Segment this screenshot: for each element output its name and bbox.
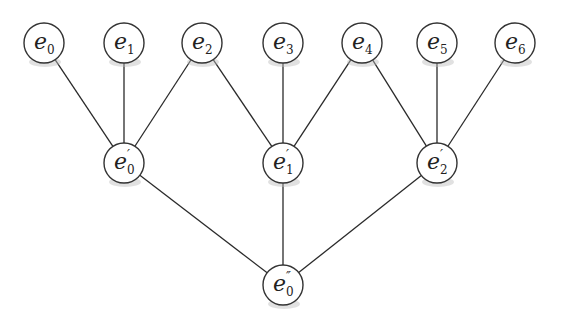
node-e0: e0 xyxy=(24,23,64,67)
edge-e0p-e0pp xyxy=(140,175,267,273)
edge-e2-e1p xyxy=(213,60,272,147)
edge-e2-e0p xyxy=(135,60,191,146)
node-label: e xyxy=(114,149,127,174)
node-prime: ′ xyxy=(286,147,289,162)
node-prime: ′ xyxy=(440,147,443,162)
nodes-layer: e0e1e2e3e4e5e6e0′e1′e2′e0″ xyxy=(24,23,535,309)
node-e2p: e2′ xyxy=(417,143,457,187)
tree-diagram: e0e1e2e3e4e5e6e0′e1′e2′e0″ xyxy=(0,0,566,326)
node-subscript: 0 xyxy=(127,163,135,177)
node-e3: e3 xyxy=(263,23,303,67)
node-subscript: 5 xyxy=(440,43,448,57)
node-subscript: 1 xyxy=(286,163,294,177)
node-subscript: 0 xyxy=(286,285,294,299)
node-prime: ″ xyxy=(286,269,291,284)
node-prime: ′ xyxy=(127,147,130,162)
node-subscript: 3 xyxy=(286,43,294,57)
node-label: e xyxy=(273,29,286,54)
node-label: e xyxy=(192,29,205,54)
node-e4: e4 xyxy=(342,23,382,67)
node-e5: e5 xyxy=(417,23,457,67)
node-e0p: e0′ xyxy=(104,143,144,187)
node-subscript: 1 xyxy=(127,43,135,57)
node-label: e xyxy=(114,29,127,54)
node-e6: e6 xyxy=(495,23,535,67)
node-label: e xyxy=(273,271,286,296)
node-label: e xyxy=(352,29,365,54)
node-label: e xyxy=(427,149,440,174)
node-label: e xyxy=(273,149,286,174)
node-subscript: 2 xyxy=(205,43,213,57)
node-label: e xyxy=(34,29,47,54)
edge-e0-e0p xyxy=(55,60,113,147)
edge-e6-e2p xyxy=(448,60,504,146)
edge-e4-e2p xyxy=(373,60,427,146)
node-e2: e2 xyxy=(182,23,222,67)
node-e1p: e1′ xyxy=(263,143,303,187)
node-subscript: 6 xyxy=(518,43,526,57)
node-label: e xyxy=(427,29,440,54)
node-e1: e1 xyxy=(104,23,144,67)
edge-e2p-e0pp xyxy=(299,175,422,272)
node-subscript: 4 xyxy=(365,43,373,57)
node-subscript: 2 xyxy=(440,163,448,177)
edge-e4-e1p xyxy=(294,60,351,147)
node-e0pp: e0″ xyxy=(263,265,303,309)
node-subscript: 0 xyxy=(47,43,55,57)
node-label: e xyxy=(505,29,518,54)
